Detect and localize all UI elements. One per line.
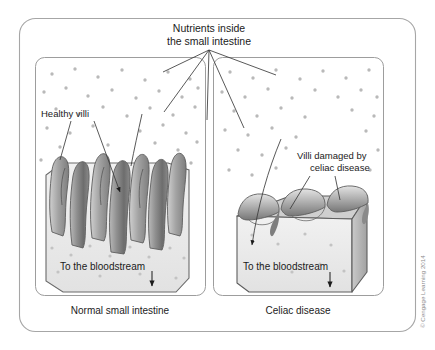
healthy-villi-label: Healthy villi [41,108,89,119]
bloodstream-label-right: To the bloodstream [243,261,328,272]
panel-caption-celiac: Celiac disease [265,305,330,316]
panel-caption-normal: Normal small intestine [71,305,170,316]
damaged-villi-label-line-2: celiac disease [310,162,370,173]
panel-normal-small-intestine: To the bloodstream Normal small intestin… [36,58,206,317]
title-line-1: Nutrients inside [173,22,246,34]
celiac-villi-diagram: To the bloodstream Normal small intestin… [0,0,435,350]
title-line-2: the small intestine [167,35,251,47]
damaged-villi-label-line-1: Villi damaged by [297,150,367,161]
copyright-credit: © Cengage Learning 2014 [419,255,426,328]
panel-celiac-disease: To the bloodstream Celiac disease [214,58,384,317]
bloodstream-label-left: To the bloodstream [60,261,145,272]
